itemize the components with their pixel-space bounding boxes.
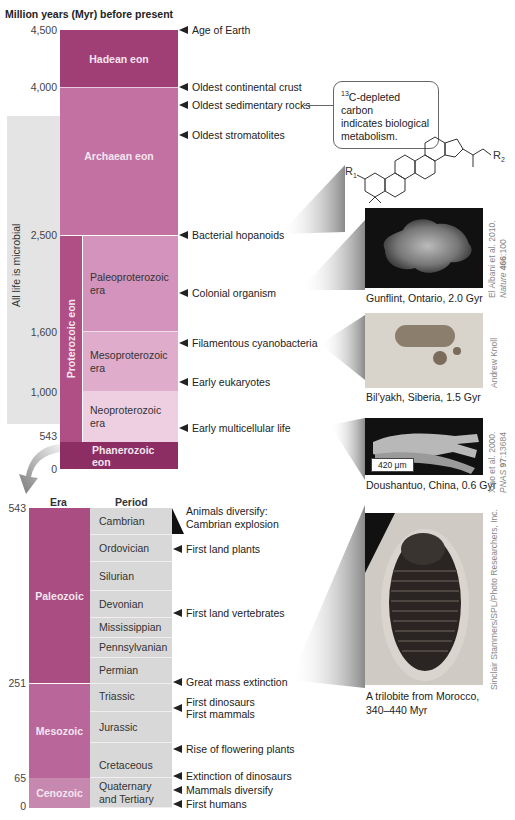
arrow-left-icon (173, 786, 182, 794)
period-quaternary-tertiary: Quaternary and Tertiary (90, 778, 172, 808)
colonial-fossil-icon (365, 208, 483, 288)
cenozoic-era-bar: Cenozoic (29, 778, 90, 808)
period-jurassic: Jurassic (90, 712, 172, 743)
paleozoic-era-bar: Paleozoic (29, 508, 90, 683)
period-silurian: Silurian (90, 562, 172, 591)
doushantuo-caption: Doushantuo, China, 0.6 Gyr (366, 479, 496, 491)
cenozoic-label: Cenozoic (36, 787, 83, 799)
doushantuo-credit: Xiao et al. 2000. PNAS 97:13684 (487, 418, 509, 493)
period-triassic: Triassic (90, 684, 172, 712)
event-cambrian-explosion: Animals diversify: Cambrian explosion (186, 505, 279, 531)
bilyakh-fossil-image (365, 313, 483, 388)
hopanoid-molecule-diagram: R1 R2 (345, 135, 515, 203)
trilobite-credit: Sinclair Stammers/SPL/Photo Researchers,… (489, 505, 499, 690)
period-mississippian: Mississippian (90, 618, 172, 638)
event-extinction-of-dinosaurs: Extinction of dinosaurs (173, 770, 292, 782)
trilobite-icon (365, 513, 483, 685)
tick-0-lower: 0 (0, 800, 26, 812)
arrow-left-icon (173, 545, 182, 553)
period-devonian: Devonian (90, 591, 172, 618)
tick-65-lower: 65 (0, 772, 26, 784)
bilyakh-caption: Bil'yakh, Siberia, 1.5 Gyr (366, 391, 481, 403)
arrow-left-icon (173, 772, 182, 780)
arrow-left-icon (173, 745, 182, 753)
period-ordovician: Ordovician (90, 535, 172, 562)
event-first-humans: First humans (173, 798, 247, 810)
gunflint-fossil-image (365, 208, 483, 288)
gunflint-caption: Gunflint, Ontario, 2.0 Gyr (366, 292, 483, 304)
event-first-land-vertebrates: First land vertebrates (173, 607, 285, 619)
event-flowering-plants: Rise of flowering plants (173, 743, 295, 755)
event-first-dinosaurs-mammals: First dinosaursFirst mammals (173, 696, 255, 720)
svg-text:R2: R2 (493, 149, 505, 163)
bilyakh-credit: Andrew Knoll (489, 318, 499, 388)
period-header: Period (115, 496, 148, 508)
paleozoic-label: Paleozoic (35, 590, 83, 602)
period-permian: Permian (90, 658, 172, 684)
cyanobacteria-fossil-icon (365, 313, 483, 388)
mesozoic-era-bar: Mesozoic (29, 684, 90, 778)
period-cretaceous: Cretaceous (90, 743, 172, 778)
arrow-left-icon (173, 800, 182, 808)
tick-543-lower: 543 (0, 502, 26, 514)
gunflint-credit: El Albani et al. 2010. Nature 466:100 (487, 208, 509, 298)
event-great-mass-extinction: Great mass extinction (173, 676, 288, 688)
cambrian-wedge-icon (172, 508, 184, 534)
period-cambrian: Cambrian (90, 508, 172, 535)
arrow-left-icon (173, 704, 182, 712)
period-pennsylvanian: Pennsylvanian (90, 638, 172, 658)
trilobite-caption: A trilobite from Morocco, 340–440 Myr (366, 689, 479, 717)
event-mammals-diversify: Mammals diversify (173, 784, 273, 796)
era-header: Era (50, 496, 67, 508)
mesozoic-label: Mesozoic (36, 725, 83, 737)
scale-bar: 420 μm (371, 458, 414, 472)
doushantuo-fossil-image: 420 μm (365, 418, 483, 475)
arrow-left-icon (173, 678, 182, 686)
svg-text:R1: R1 (345, 165, 357, 179)
arrow-left-icon (173, 609, 182, 617)
event-first-land-plants: First land plants (173, 543, 260, 555)
trilobite-fossil-image (365, 513, 483, 685)
tick-251-lower: 251 (0, 677, 26, 689)
